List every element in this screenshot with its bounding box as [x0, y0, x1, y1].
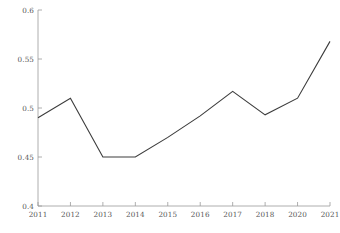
x-axis-tick-label: 2018	[249, 210, 281, 219]
x-axis-tick-label: 2020	[282, 210, 314, 219]
y-axis-ticks	[38, 10, 42, 206]
x-axis-tick-label: 2011	[22, 210, 54, 219]
y-axis-tick-label: 0.55	[2, 55, 34, 64]
chart-plot-area	[0, 0, 340, 233]
x-axis-tick-label: 2012	[54, 210, 86, 219]
x-axis-tick-label: 2017	[217, 210, 249, 219]
data-series-line	[38, 41, 330, 157]
x-axis-tick-label: 2021	[314, 210, 340, 219]
y-axis-tick-label: 0.45	[2, 153, 34, 162]
x-axis-tick-label: 2014	[119, 210, 151, 219]
x-axis-tick-label: 2016	[184, 210, 216, 219]
y-axis-tick-label: 0.6	[2, 6, 34, 15]
x-axis-tick-label: 2015	[152, 210, 184, 219]
x-axis-tick-label: 2013	[87, 210, 119, 219]
line-chart: 0.40.450.50.550.6 2011201220132014201520…	[0, 0, 340, 233]
x-axis-ticks	[38, 202, 330, 206]
y-axis-tick-label: 0.5	[2, 104, 34, 113]
